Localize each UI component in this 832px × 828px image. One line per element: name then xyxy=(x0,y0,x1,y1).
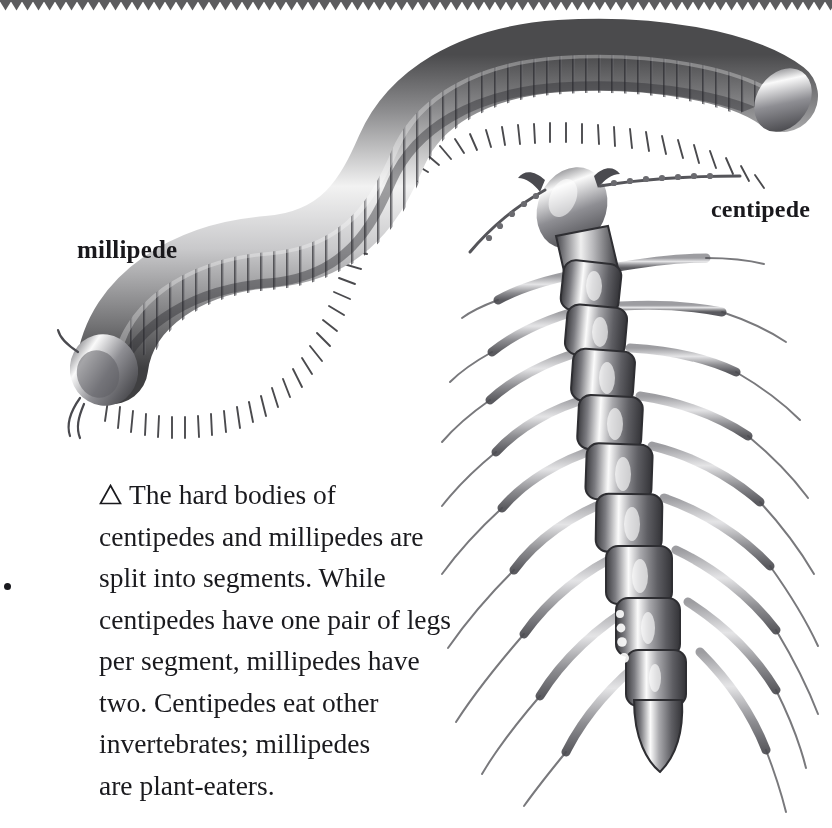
caption-line-5: per segment, millipedes have xyxy=(99,640,539,682)
caption-line-4: centipedes have one pair of legs xyxy=(99,599,539,641)
caption-line-3: split into segments. While xyxy=(99,557,539,599)
label-millipede: millipede xyxy=(77,236,177,264)
caption-line-7: invertebrates; millipedes xyxy=(99,723,539,765)
label-centipede: centipede xyxy=(711,196,810,223)
margin-dot xyxy=(4,583,11,590)
book-page: millipede centipede The hard bodies of c… xyxy=(0,0,832,828)
millipede-illustration xyxy=(58,24,824,438)
caption-line-2: centipedes and millipedes are xyxy=(99,516,539,558)
scalloped-top-border xyxy=(0,0,832,14)
caption-block: The hard bodies of centipedes and millip… xyxy=(99,474,539,806)
caption-line-6: two. Centipedes eat other xyxy=(99,682,539,724)
triangle-up-marker xyxy=(99,475,122,517)
caption-line-1-text: The hard bodies of xyxy=(129,479,336,510)
caption-line-8: are plant-eaters. xyxy=(99,765,539,807)
caption-line-1: The hard bodies of xyxy=(99,474,539,516)
